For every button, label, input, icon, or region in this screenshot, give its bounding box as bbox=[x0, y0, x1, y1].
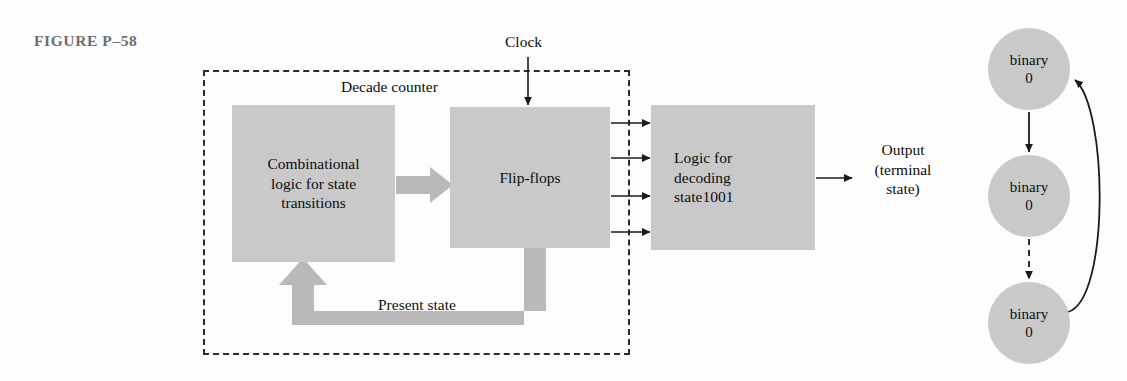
state-node-1-line-1: binary bbox=[1010, 178, 1048, 196]
state-node-0-line-1: binary bbox=[1010, 51, 1048, 69]
state-node-2-line-2: 0 bbox=[1025, 323, 1033, 341]
output-label: Output (terminal state) bbox=[855, 140, 951, 199]
state-node-0-line-2: 0 bbox=[1025, 69, 1033, 87]
state-node-1-line-2: 0 bbox=[1025, 196, 1033, 214]
state-node-2-line-1: binary bbox=[1010, 305, 1048, 323]
signal-arrows-layer bbox=[0, 0, 1127, 381]
figure-container: FIGURE P–58 Decade counter Clock Combina… bbox=[0, 0, 1127, 381]
state-return-arrow-icon bbox=[1068, 80, 1100, 312]
output-label-line-1: Output bbox=[855, 140, 951, 160]
state-node-1: binary 0 bbox=[988, 155, 1070, 237]
state-node-0: binary 0 bbox=[988, 28, 1070, 110]
output-label-line-3: state) bbox=[855, 179, 951, 199]
state-node-2: binary 0 bbox=[988, 282, 1070, 364]
output-label-line-2: (terminal bbox=[855, 160, 951, 180]
